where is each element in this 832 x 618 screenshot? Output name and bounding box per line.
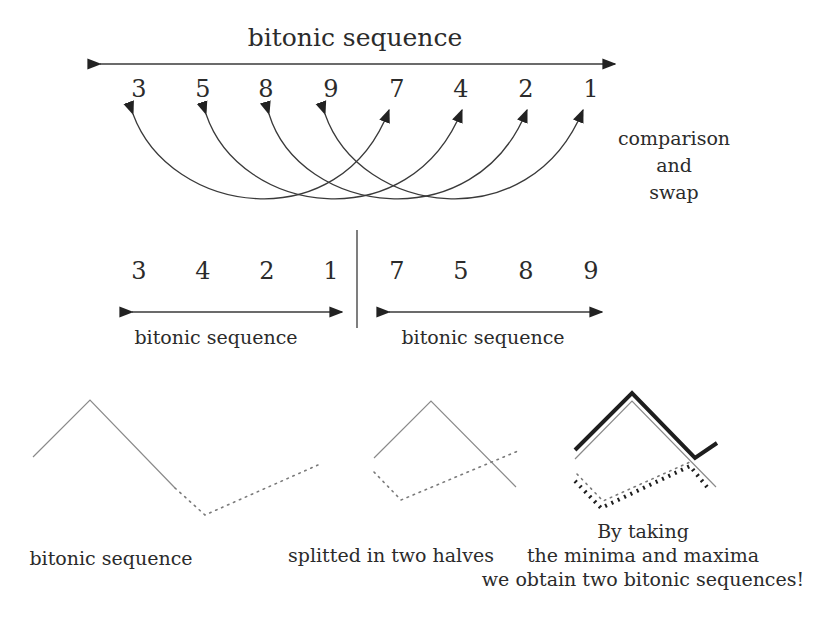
- mid-number: 3: [131, 257, 146, 285]
- graph3-thin-solid-line: [575, 401, 716, 487]
- graph1-dotted-line: [175, 465, 318, 515]
- graph1-solid-line: [33, 400, 175, 488]
- caption-bitonic-sequence: bitonic sequence: [29, 547, 192, 569]
- top-number-row: 3 5 8 9 7 4 2 1: [131, 75, 598, 103]
- top-number: 7: [389, 75, 404, 103]
- mid-number: 7: [389, 257, 404, 285]
- caption-split-halves: splitted in two halves: [288, 544, 494, 566]
- side-label-line: swap: [649, 181, 699, 203]
- compare-arc-8-2: [269, 110, 527, 199]
- caption3-line: the minima and maxima: [527, 544, 759, 566]
- diagram-canvas: bitonic sequence 3 5 8 9 7 4 2 1 compari…: [0, 0, 832, 618]
- mid-number: 9: [583, 257, 598, 285]
- top-number: 4: [453, 75, 468, 103]
- top-number: 5: [195, 75, 210, 103]
- compare-arc-3-7: [133, 110, 389, 199]
- graph3-minima-thick-dotted-line: [575, 466, 707, 508]
- mid-number: 5: [453, 257, 468, 285]
- graph-bitonic-sequence: [33, 400, 318, 515]
- comparison-arcs: [133, 110, 583, 199]
- mid-number: 2: [259, 257, 274, 285]
- top-number: 1: [583, 75, 598, 103]
- graph3-thin-dotted-line: [577, 462, 690, 501]
- left-half-label: bitonic sequence: [134, 326, 297, 348]
- middle-right-half: 7 5 8 9 bitonic sequence: [389, 257, 602, 348]
- right-half-label: bitonic sequence: [401, 326, 564, 348]
- top-number: 2: [518, 75, 533, 103]
- side-label-line: and: [656, 154, 692, 176]
- bitonic-sort-diagram: bitonic sequence 3 5 8 9 7 4 2 1 compari…: [0, 0, 832, 618]
- top-title: bitonic sequence: [248, 23, 463, 52]
- graph-min-max: [575, 393, 717, 508]
- middle-left-half: 3 4 2 1 bitonic sequence: [131, 257, 342, 348]
- graph3-maxima-thick-line: [575, 393, 717, 458]
- mid-number: 4: [195, 257, 210, 285]
- top-number: 3: [131, 75, 146, 103]
- mid-number: 8: [518, 257, 533, 285]
- mid-number: 1: [323, 257, 338, 285]
- caption3-line: we obtain two bitonic sequences!: [482, 568, 804, 590]
- top-number: 9: [323, 75, 338, 103]
- graph2-solid-line: [374, 401, 516, 487]
- top-number: 8: [258, 75, 273, 103]
- caption-min-max: By taking the minima and maxima we obtai…: [482, 520, 804, 590]
- graph2-dotted-line: [374, 451, 518, 500]
- caption3-line: By taking: [597, 520, 689, 542]
- comparison-swap-label: comparison and swap: [618, 127, 730, 203]
- side-label-line: comparison: [618, 127, 730, 149]
- graph-split-halves: [374, 401, 518, 500]
